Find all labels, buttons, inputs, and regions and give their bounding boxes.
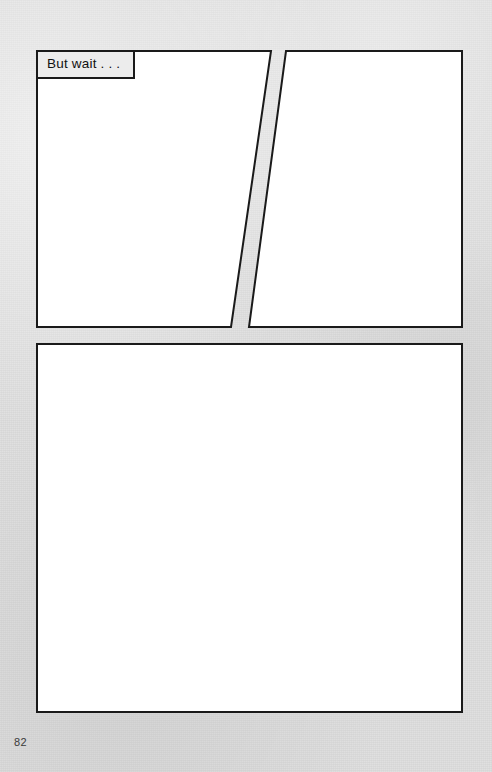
caption-box-but-wait: But wait . . .: [36, 50, 135, 79]
panel-1: [37, 51, 271, 327]
panel-2: [249, 51, 462, 327]
panel-3: [37, 344, 462, 712]
comic-page: But wait . . . 82: [0, 0, 492, 772]
caption-text: But wait . . .: [47, 57, 120, 71]
page-number: 82: [14, 737, 27, 748]
comic-panel-artboard: [0, 0, 492, 772]
